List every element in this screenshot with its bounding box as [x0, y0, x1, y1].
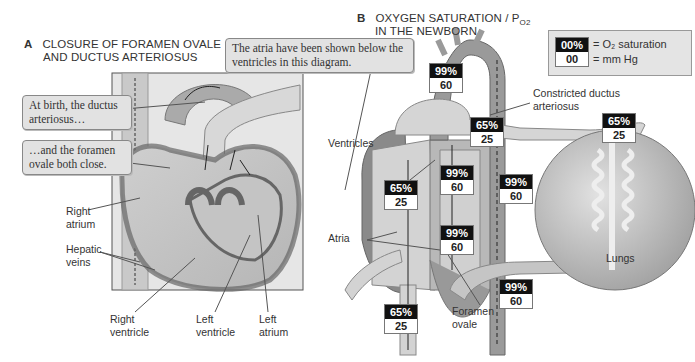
label-left-ventricle: Left ventricle — [196, 313, 246, 338]
legend-sat-text: = O₂ saturation — [593, 38, 667, 50]
label-lungs: Lungs — [606, 252, 635, 265]
legend-sample-pair: 00% 00 — [555, 37, 589, 67]
sat-value: 65% — [603, 114, 635, 128]
mm-value: 60 — [500, 294, 532, 308]
mm-value: 60 — [430, 78, 462, 92]
sat-value: 99% — [430, 64, 462, 78]
panel-b-letter: B — [357, 12, 365, 24]
label-right-ventricle: Right ventricle — [110, 313, 160, 338]
panel-b-title-sub: O2 — [520, 18, 531, 27]
mm-value: 60 — [441, 180, 473, 194]
mm-value: 60 — [500, 189, 532, 203]
label-constricted-ductus: Constricted ductus arteriosus — [533, 87, 633, 112]
sat-value: 99% — [500, 280, 532, 294]
sat-value: 65% — [385, 305, 417, 319]
label-atria: Atria — [328, 232, 350, 245]
value-left-ventricle: 99%60 — [440, 165, 474, 195]
mm-value: 60 — [441, 240, 473, 254]
panel-b-title-line2: IN THE NEWBORN — [375, 25, 477, 38]
panel-b-title-line1: OXYGEN SATURATION / P — [375, 12, 519, 24]
sat-value: 99% — [441, 226, 473, 240]
label-ventricles: Ventricles — [328, 137, 374, 150]
sat-value: 99% — [441, 166, 473, 180]
sat-value: 99% — [500, 175, 532, 189]
value-aorta: 99%60 — [429, 63, 463, 93]
mm-value: 25 — [385, 319, 417, 333]
value-descending-aorta: 99%60 — [499, 174, 533, 204]
label-left-atrium: Left atrium — [259, 313, 299, 338]
mm-value: 25 — [471, 132, 503, 146]
value-pulmonary-artery: 65%25 — [470, 117, 504, 147]
callout-foramen-ovale: …and the foramen ovale both close. — [22, 140, 132, 175]
mm-value: 25 — [603, 128, 635, 142]
mm-value: 25 — [385, 195, 417, 209]
sat-value: 65% — [385, 181, 417, 195]
legend-mm-sample: 00 — [556, 52, 588, 66]
legend: 00% 00 = O₂ saturation = mm Hg — [548, 30, 692, 76]
sat-value: 65% — [471, 118, 503, 132]
value-right-ventricle: 65%25 — [384, 180, 418, 210]
label-right-atrium: Right atrium — [66, 205, 106, 230]
value-left-atrium: 99%60 — [440, 225, 474, 255]
callout-atria-position: The atria have been shown below the vent… — [225, 38, 414, 73]
label-hepatic-veins: Hepatic veins — [66, 243, 106, 268]
value-lung-inflow: 65%25 — [602, 113, 636, 143]
value-descending-aorta-lower: 99%60 — [499, 279, 533, 309]
label-foramen-ovale: Foramen ovale — [452, 305, 492, 330]
legend-mm-text: = mm Hg — [593, 53, 638, 65]
legend-sat-sample: 00% — [556, 38, 588, 52]
callout-ductus-arteriosus: At birth, the ductus arteriosus… — [22, 95, 132, 130]
value-vena-cava: 65%25 — [384, 304, 418, 334]
